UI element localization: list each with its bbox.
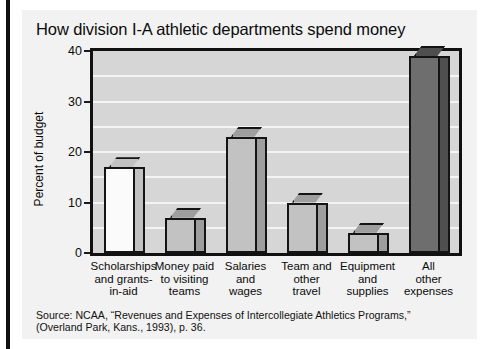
gridline <box>93 151 459 153</box>
bar-group <box>104 51 145 253</box>
x-axis-category-label-line: expenses <box>392 285 465 298</box>
gridline <box>93 126 459 128</box>
bar-group <box>409 51 450 253</box>
bar-side-face <box>379 233 389 253</box>
bar-front-face <box>348 233 379 253</box>
bar-front-face <box>165 218 196 253</box>
bar-side-face <box>257 137 267 253</box>
x-axis-category-label-line: other <box>392 273 465 286</box>
bar-side-face <box>318 203 328 254</box>
gridline <box>93 75 459 77</box>
bar-group <box>226 51 267 253</box>
bar-front-face <box>287 203 318 254</box>
bar-top-face <box>353 223 384 233</box>
y-axis-tick-labels: 010203040 <box>56 48 82 260</box>
y-axis-tick-label: 30 <box>68 95 82 109</box>
bar-side-face <box>135 167 145 253</box>
y-axis-tick-label: 20 <box>68 145 82 159</box>
x-axis-category-labels: Scholarshipsand grants-in-aidMoney paidt… <box>90 260 462 312</box>
page-left-rule <box>6 0 10 349</box>
gridline <box>93 202 459 204</box>
gridline <box>93 101 459 103</box>
y-axis-tick-label: 40 <box>68 44 82 58</box>
bar-top-face <box>231 127 262 137</box>
bar-top-face <box>170 208 201 218</box>
gridline <box>93 227 459 229</box>
gridline <box>93 176 459 178</box>
source-line-1: Source: NCAA, “Revenues and Expenses of … <box>36 309 464 321</box>
bar-front-face <box>226 137 257 253</box>
chart-plot-wrapper: Percent of budget 010203040 Scholarships… <box>36 48 464 270</box>
bar-side-face <box>440 56 450 253</box>
bar-front-face <box>104 167 135 253</box>
x-axis-category-label: Allotherexpenses <box>392 260 465 298</box>
bar-group <box>348 51 389 253</box>
source-line-2: (Overland Park, Kans., 1993), p. 36. <box>36 321 464 333</box>
bar-top-face <box>414 46 445 56</box>
bar-side-face <box>196 218 206 253</box>
y-axis-tick-label: 10 <box>68 196 82 210</box>
bar-front-face <box>409 56 440 253</box>
bar-group <box>165 51 206 253</box>
bar-top-face <box>292 193 323 203</box>
source-note: Source: NCAA, “Revenues and Expenses of … <box>36 309 464 334</box>
bar-top-face <box>109 157 140 167</box>
chart-title: How division I-A athletic departments sp… <box>36 20 405 39</box>
x-axis-category-label-line: All <box>392 260 465 273</box>
y-axis-tick-label: 0 <box>75 246 82 260</box>
figure-card: How division I-A athletic departments sp… <box>22 10 477 339</box>
plot-area <box>90 48 462 256</box>
bar-group <box>287 51 328 253</box>
y-axis-title: Percent of budget <box>32 104 46 214</box>
